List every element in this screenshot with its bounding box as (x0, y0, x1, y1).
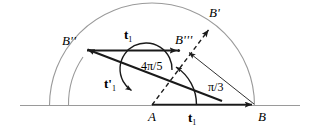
angle-arc-pi3 (176, 67, 197, 105)
label-point-a: A (148, 110, 156, 123)
label-point-b-double-prime: B'' (62, 34, 77, 47)
label-angle-pi3: π/3 (208, 81, 223, 93)
subscript-t1-prime: 1 (112, 84, 116, 93)
label-point-b-triple-prime: B''' (175, 33, 193, 46)
label-vector-t1-bottom: t1 (188, 111, 196, 124)
label-angle-4pi5: 4π/5 (141, 60, 162, 72)
label-vector-t1-top: t1 (124, 28, 132, 41)
geometry-figure: B'' B''' B' A B t1 t1 t'1 4π/5 π/3 (0, 0, 312, 131)
prime-marks-b-triple: ''' (183, 32, 193, 47)
subscript-t1-bottom: 1 (192, 118, 196, 127)
label-point-b-prime: B' (209, 6, 220, 19)
outer-arc (50, 3, 255, 106)
label-vector-t1-prime: t'1 (104, 77, 116, 90)
subscript-t1-top: 1 (128, 35, 132, 44)
label-point-b: B (258, 110, 266, 123)
prime-marks-b-double: '' (70, 33, 77, 48)
point-marker-btriple (177, 49, 180, 52)
inner-arc (68, 57, 83, 106)
prime-marks-b-prime: ' (217, 5, 220, 20)
